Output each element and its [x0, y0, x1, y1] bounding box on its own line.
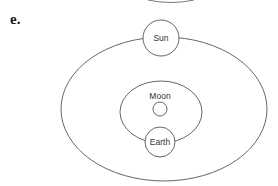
moon-circle	[153, 102, 167, 116]
previous-figure-arc	[148, 0, 194, 3]
earth-node: Earth	[145, 127, 175, 157]
moon-label: Moon	[149, 91, 171, 101]
sun-label: Sun	[153, 33, 168, 43]
earth-label: Earth	[150, 137, 171, 147]
orbit-diagram: Sun Moon Earth	[0, 0, 278, 186]
moon-node: Moon	[149, 91, 171, 116]
sun-node: Sun	[143, 20, 179, 56]
